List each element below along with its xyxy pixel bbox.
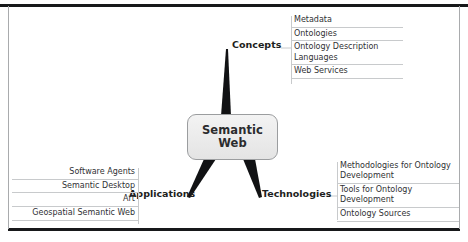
sub-item-technologies-1[interactable]: Tools for Ontology Development xyxy=(337,184,459,208)
sub-group-concepts: Metadata Ontologies Ontology Description… xyxy=(291,14,403,79)
frame-right-border xyxy=(459,6,460,229)
sub-item-applications-1[interactable]: Semantic Desktop xyxy=(12,180,138,194)
sub-item-concepts-1[interactable]: Ontologies xyxy=(291,28,403,42)
mind-map-canvas: Semantic Web Concepts Applications Techn… xyxy=(0,0,468,242)
sub-item-concepts-0[interactable]: Metadata xyxy=(291,14,403,28)
sub-item-technologies-2[interactable]: Ontology Sources xyxy=(337,208,459,222)
frame-left-border xyxy=(8,6,9,229)
sub-group-technologies: Methodologies for Ontology Development T… xyxy=(337,160,459,222)
frame-top-border xyxy=(0,4,468,7)
sub-group-applications: Software Agents Semantic Desktop Art Geo… xyxy=(12,166,138,221)
spine-technologies xyxy=(337,162,338,220)
sub-item-applications-0[interactable]: Software Agents xyxy=(12,166,138,180)
central-node-semantic-web[interactable]: Semantic Web xyxy=(187,114,278,160)
branch-label-concepts[interactable]: Concepts xyxy=(232,39,281,50)
branch-wedge-technologies xyxy=(243,159,262,198)
branch-label-technologies[interactable]: Technologies xyxy=(262,188,331,199)
sub-item-applications-2[interactable]: Art xyxy=(12,193,138,207)
sub-item-applications-3[interactable]: Geospatial Semantic Web xyxy=(12,207,138,221)
frame-bottom-border xyxy=(8,228,460,231)
branch-wedge-concepts xyxy=(221,49,231,116)
spine-applications xyxy=(138,168,139,224)
sub-item-technologies-0[interactable]: Methodologies for Ontology Development xyxy=(337,160,459,184)
sub-item-concepts-3[interactable]: Web Services xyxy=(291,65,403,79)
central-node-line2: Web xyxy=(218,137,247,150)
sub-item-concepts-2[interactable]: Ontology Description Languages xyxy=(291,41,403,65)
spine-concepts xyxy=(291,16,292,84)
